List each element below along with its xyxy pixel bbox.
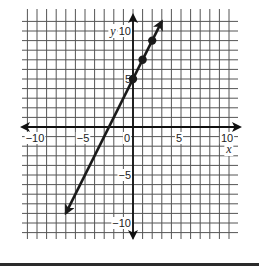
coordinate-plane: −10−50510−10−5510yx <box>0 0 259 266</box>
data-point <box>129 75 137 83</box>
x-tick-label: 5 <box>176 132 182 144</box>
x-axis-label: x <box>225 142 232 156</box>
x-tick-label: 0 <box>124 132 130 144</box>
x-tick-label: −5 <box>77 132 90 144</box>
y-axis-label: y <box>109 24 116 38</box>
grid-lines <box>22 9 238 239</box>
y-tick-label: 10 <box>119 25 131 37</box>
y-tick-label: −10 <box>112 217 131 229</box>
axes <box>22 15 240 238</box>
data-point <box>138 56 146 64</box>
x-tick-label: −10 <box>26 132 45 144</box>
y-tick-label: −5 <box>118 169 131 181</box>
data-point <box>148 36 156 44</box>
